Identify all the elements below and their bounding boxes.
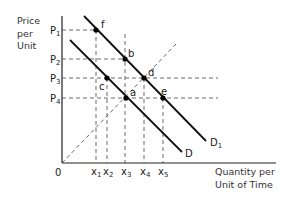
- label-d: d: [148, 67, 154, 78]
- tick-p1: P1: [50, 25, 61, 38]
- tick-p3: P3: [50, 73, 61, 86]
- point-c: [104, 75, 109, 80]
- label-c: c: [99, 81, 105, 92]
- point-d: [141, 75, 146, 80]
- point-a: [123, 95, 128, 100]
- tick-p4: P4: [50, 93, 61, 106]
- tick-x1: x1: [91, 166, 101, 179]
- origin-label: 0: [55, 167, 61, 178]
- xlabel-line-1: Quantity per: [215, 166, 275, 177]
- label-b: b: [128, 48, 134, 59]
- ylabel-line-1: Price: [17, 15, 40, 26]
- origin-ray: [62, 44, 176, 163]
- tick-x2: x2: [103, 166, 113, 179]
- tick-x5: x5: [158, 166, 168, 179]
- ylabel-line-3: Unit: [17, 40, 37, 51]
- tick-x4: x4: [140, 166, 151, 179]
- label-f: f: [101, 19, 105, 30]
- demand-shift-diagram: f b c d a e D D1 P1 P2 P3 P4 x1 x2 x3 x4…: [0, 0, 288, 197]
- label-curve-d1: D1: [210, 137, 222, 150]
- xlabel-line-2: Unit of Time: [215, 179, 273, 190]
- tick-p2: P2: [50, 54, 61, 67]
- label-curve-d: D: [185, 148, 193, 159]
- label-a: a: [130, 87, 136, 98]
- ylabel-line-2: per: [17, 28, 33, 39]
- point-b: [122, 56, 127, 61]
- point-f: [93, 27, 98, 32]
- tick-x3: x3: [121, 166, 131, 179]
- label-e: e: [161, 86, 167, 97]
